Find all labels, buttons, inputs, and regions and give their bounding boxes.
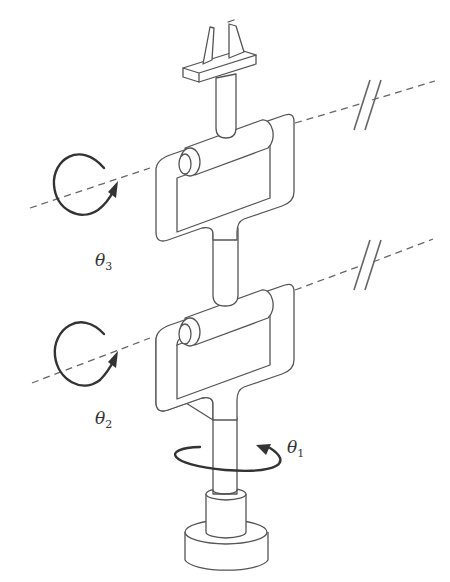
gripper bbox=[183, 20, 256, 138]
vertical-shaft bbox=[213, 418, 237, 494]
theta2-label: θ2 bbox=[95, 408, 112, 431]
theta3-label: θ3 bbox=[95, 250, 112, 273]
theta1-label: θ1 bbox=[287, 437, 304, 460]
axis-break-marker bbox=[354, 240, 381, 290]
theta3-rotation-arrow bbox=[54, 154, 118, 214]
theta2-rotation-arrow bbox=[55, 322, 118, 385]
base bbox=[185, 488, 268, 570]
robot-wrist-diagram bbox=[0, 0, 450, 582]
